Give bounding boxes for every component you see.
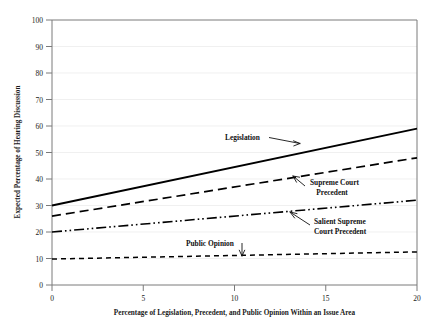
x-tick-label-0: 0 (50, 294, 54, 303)
annotation-label-public-opinion: Public Opinion (186, 239, 234, 248)
y-tick-label-40: 40 (36, 175, 44, 184)
y-tick-label-0: 0 (39, 281, 43, 290)
y-tick-label-70: 70 (36, 96, 44, 105)
y-tick-label-90: 90 (36, 43, 44, 52)
y-tick-label-60: 60 (36, 122, 44, 131)
annotation-label-supreme-court-precedent-line2: Precedent (316, 188, 348, 197)
y-tick-label-100: 100 (32, 16, 44, 25)
x-tick-label-15: 15 (322, 294, 330, 303)
y-tick-label-10: 10 (36, 255, 44, 264)
x-axis-title: Percentage of Legislation, Precedent, an… (114, 309, 356, 317)
line-chart: 100 90 80 70 60 50 40 30 20 10 0 0 5 10 … (0, 0, 433, 325)
x-tick-label-5: 5 (141, 294, 145, 303)
y-axis-title: Expected Percentage of Hearing Discussio… (14, 86, 22, 219)
x-tick-label-10: 10 (231, 294, 239, 303)
annotation-label-salient-supreme-court-precedent-line2: Court Precedent (314, 227, 367, 236)
y-tick-label-30: 30 (36, 202, 44, 211)
y-tick-label-50: 50 (36, 149, 44, 158)
annotation-label-salient-supreme-court-precedent-line1: Salient Supreme (314, 217, 367, 226)
annotation-label-supreme-court-precedent-line1: Supreme Court (310, 178, 359, 187)
annotation-label-legislation: Legislation (225, 133, 260, 142)
x-tick-label-20: 20 (413, 294, 421, 303)
chart-background (0, 0, 433, 325)
y-tick-label-20: 20 (36, 228, 44, 237)
chart-container: 100 90 80 70 60 50 40 30 20 10 0 0 5 10 … (0, 0, 433, 325)
y-tick-label-80: 80 (36, 69, 44, 78)
